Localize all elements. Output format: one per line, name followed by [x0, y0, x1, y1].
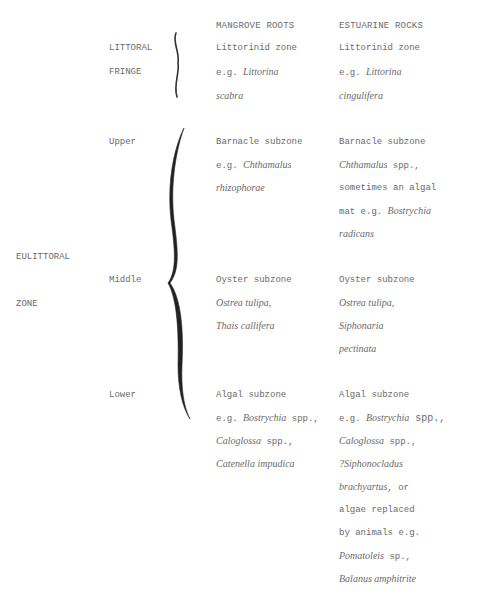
middle-rocks-line3: Siphonaria — [339, 320, 383, 332]
brace-littoral-fringe-icon — [168, 30, 188, 100]
middle-mangrove-line1: Oyster subzone — [216, 274, 292, 286]
lower-rocks-line9: Balanus amphitrite — [339, 573, 416, 585]
middle-mangrove-line2: Ostrea tulipa, — [216, 297, 271, 309]
upper-rocks-line1: Barnacle subzone — [339, 136, 425, 148]
lower-mangrove-line3: Caloglossa spp., — [216, 435, 293, 448]
header-mangrove-roots: MANGROVE ROOTS — [216, 20, 294, 32]
upper-mangrove-line3: rhizophorae — [216, 182, 265, 194]
lower-rocks-line8: Pomatoleis sp., — [339, 550, 411, 563]
fringe-mangrove-line2: e.g. Littorina — [216, 66, 279, 79]
brace-eulittoral-icon — [160, 125, 194, 423]
lower-rocks-line6: algae replaced — [339, 504, 415, 516]
fringe-mangrove-line3: scabra — [216, 90, 243, 102]
upper-mangrove-line2: e.g. Chthamalus — [216, 159, 291, 172]
lower-mangrove-line2: e.g. Bostrychia spp., — [216, 412, 319, 425]
upper-mangrove-line1: Barnacle subzone — [216, 136, 302, 148]
lower-rocks-line2: e.g. Bostrychia spp., — [339, 412, 445, 425]
zone-label-fringe: FRINGE — [109, 66, 141, 78]
lower-mangrove-line4: Catenella impudica — [216, 458, 295, 470]
header-estuarine-rocks: ESTUARINE ROCKS — [339, 20, 423, 32]
lower-rocks-line7: by animals e.g. — [339, 527, 420, 539]
middle-rocks-line2: Ostrea tulipa, — [339, 297, 394, 309]
subzone-label-middle: Middle — [109, 274, 141, 286]
lower-mangrove-line1: Algal subzone — [216, 389, 286, 401]
middle-rocks-line1: Oyster subzone — [339, 274, 415, 286]
middle-rocks-line4: pectinata — [339, 343, 376, 355]
zone-label-zone: ZONE — [16, 298, 38, 310]
fringe-rocks-line3: cingulifera — [339, 90, 383, 102]
lower-rocks-line3: Caloglossa spp., — [339, 435, 416, 448]
subzone-label-upper: Upper — [109, 136, 136, 148]
subzone-label-lower: Lower — [109, 389, 136, 401]
lower-rocks-line5: brachyartus, or — [339, 481, 409, 494]
fringe-rocks-line1: Littorinid zone — [339, 42, 420, 54]
upper-rocks-line5: radicans — [339, 228, 374, 240]
upper-rocks-line4: mat e.g. Bostrychia — [339, 205, 431, 218]
fringe-rocks-line2: e.g. Littorina — [339, 66, 402, 79]
upper-rocks-line3: sometimes an algal — [339, 182, 436, 194]
fringe-mangrove-line1: Littorinid zone — [216, 42, 297, 54]
upper-rocks-line2: Chthamalus spp., — [339, 159, 420, 172]
middle-mangrove-line3: Thais callifera — [216, 320, 275, 332]
zone-label-littoral: LITTORAL — [109, 42, 152, 54]
zone-label-eulittoral: EULITTORAL — [16, 251, 70, 263]
lower-rocks-line1: Algal subzone — [339, 389, 409, 401]
lower-rocks-line4: ?Siphonocladus — [339, 458, 403, 470]
